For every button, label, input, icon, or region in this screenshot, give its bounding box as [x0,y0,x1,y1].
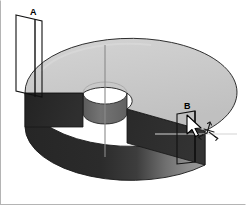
solid-body [25,38,237,180]
label-a: A [30,8,37,17]
label-b: B [184,102,191,111]
cut-face-left [25,93,83,127]
figure-canvas: A B [0,0,246,205]
isometric-solid-scene [1,1,246,205]
